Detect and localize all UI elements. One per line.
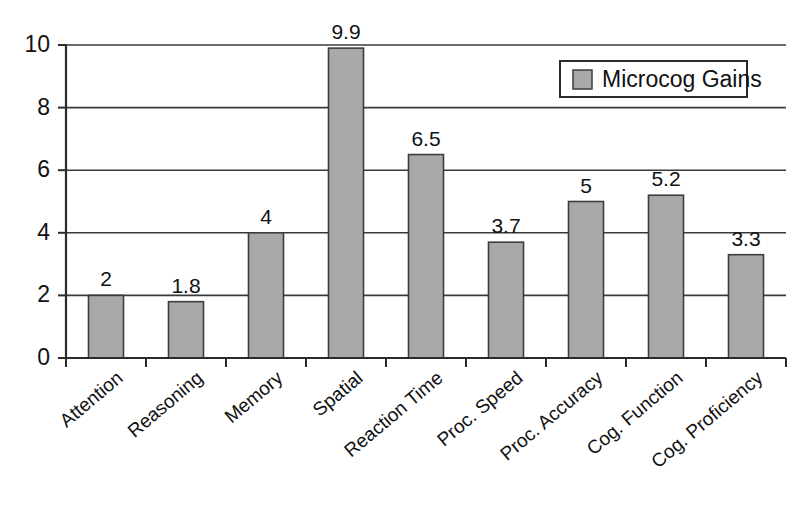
category-label-3: Spatial: [309, 367, 367, 420]
y-tick-label-8: 8: [37, 94, 50, 120]
bar-reasoning: [169, 302, 204, 358]
value-label-7: 5.2: [651, 167, 680, 190]
legend-label-microcog-gains: Microcog Gains: [602, 66, 762, 92]
value-label-5: 3.7: [491, 214, 520, 237]
bar-reaction-time: [409, 155, 444, 358]
y-tick-label-0: 0: [37, 344, 50, 370]
y-tick-label-6: 6: [37, 156, 50, 182]
x-axis-ticks-group: [66, 358, 786, 367]
value-label-3: 9.9: [331, 20, 360, 43]
value-label-8: 3.3: [731, 227, 760, 250]
bar-cog-function: [649, 195, 684, 358]
bar-memory: [249, 233, 284, 358]
y-tick-label-2: 2: [37, 281, 50, 307]
bar-attention: [89, 295, 124, 358]
y-tick-label-10: 10: [24, 31, 50, 57]
category-labels-group: AttentionReasoningMemorySpatialReaction …: [56, 367, 767, 472]
bar-cog-proficiency: [729, 255, 764, 358]
category-label-1: Reasoning: [123, 367, 206, 441]
bar-proc-accuracy: [569, 202, 604, 359]
legend-swatch-microcog-gains: [573, 70, 592, 89]
bar-chart-figure: 0246810 21.849.96.53.755.23.3 AttentionR…: [0, 0, 810, 520]
category-label-2: Memory: [221, 367, 287, 428]
value-label-4: 6.5: [411, 127, 440, 150]
chart-legend: Microcog Gains: [560, 61, 762, 97]
chart-canvas: 0246810 21.849.96.53.755.23.3 AttentionR…: [0, 0, 810, 520]
y-axis-labels-group: 0246810: [24, 31, 50, 370]
value-label-2: 4: [260, 205, 272, 228]
value-label-0: 2: [100, 267, 112, 290]
value-label-1: 1.8: [171, 274, 200, 297]
category-label-0: Attention: [56, 367, 127, 431]
bar-spatial: [329, 48, 364, 358]
value-label-6: 5: [580, 174, 592, 197]
bar-proc-speed: [489, 242, 524, 358]
y-tick-label-4: 4: [37, 219, 50, 245]
